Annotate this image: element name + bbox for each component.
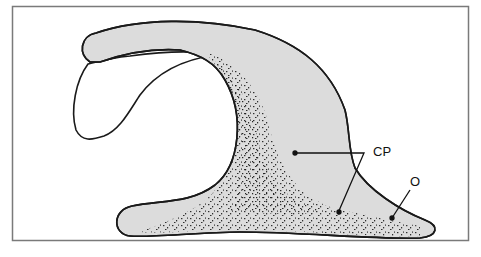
label-o: O (410, 174, 420, 189)
label-cp: CP (373, 144, 391, 159)
anatomical-diagram: CP O (0, 0, 481, 257)
